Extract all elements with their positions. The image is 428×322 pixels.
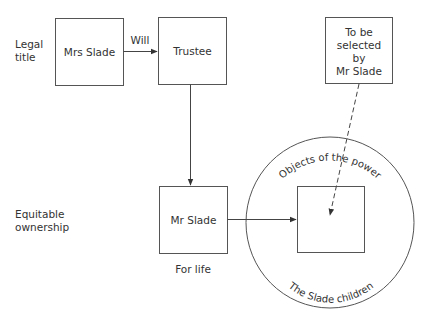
row-label-equitable-ownership: Equitable ownership [15,208,69,233]
node-mrs-slade: Mrs Slade [56,19,124,86]
circle-bottom-label: The Slade children [286,279,375,305]
mrs-slade-label: Mrs Slade [64,46,115,58]
selected-line3: by [353,52,366,64]
selected-line4: Mr Slade [336,65,382,77]
circle-top-label: Objects of the power [277,151,385,181]
mr-slade-label: Mr Slade [171,214,217,226]
selected-line1: To be [344,26,373,38]
selected-line2: selected [337,39,381,51]
legal-label-line2: title [15,51,36,63]
edge-will: Will [124,34,158,52]
for-life-label: For life [175,263,211,275]
node-trustee: Trustee [159,18,227,85]
node-objects-box [298,187,365,253]
trustee-label: Trustee [172,45,211,57]
equitable-label-line1: Equitable [15,208,64,220]
trust-diagram: Legal title Equitable ownership Mrs Slad… [0,0,428,322]
node-mr-slade: Mr Slade [160,187,228,254]
will-label: Will [131,34,150,46]
legal-label-line1: Legal [15,38,43,50]
row-label-legal-title: Legal title [15,38,43,63]
equitable-label-line2: ownership [15,221,69,233]
node-selected-by-mr-slade: To be selected by Mr Slade [326,18,393,84]
